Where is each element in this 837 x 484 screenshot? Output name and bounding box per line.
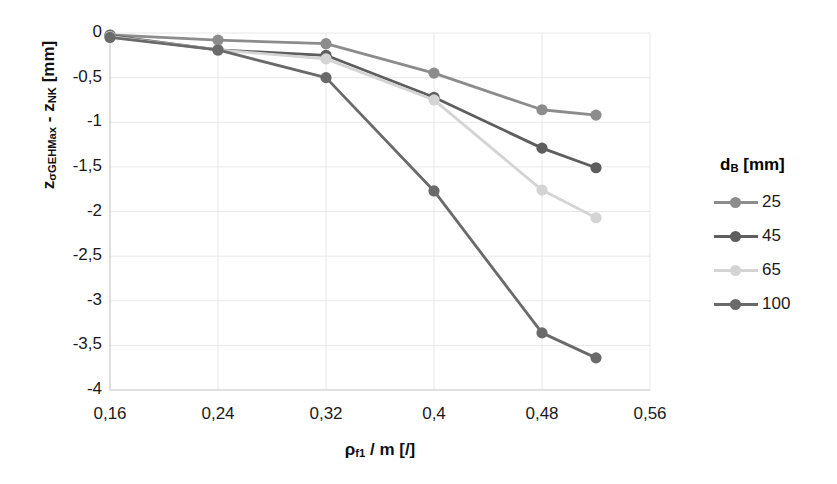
plot-area: [0, 0, 837, 484]
data-point: [536, 184, 547, 195]
legend-item-label: 65: [762, 260, 781, 280]
legend-item-100[interactable]: 100: [714, 287, 834, 321]
legend-swatch-icon: [714, 297, 758, 311]
data-point: [428, 94, 439, 105]
data-point: [320, 53, 331, 64]
data-point: [536, 104, 547, 115]
legend-title-prefix: d: [720, 155, 730, 174]
legend-item-45[interactable]: 45: [714, 219, 834, 253]
series-line: [110, 36, 596, 168]
legend-title-sub: B: [730, 162, 738, 174]
data-point: [590, 352, 601, 363]
legend-item-label: 100: [762, 294, 790, 314]
series-100: [104, 32, 601, 364]
data-point: [536, 143, 547, 154]
legend-item-label: 25: [762, 192, 781, 212]
data-point: [590, 212, 601, 223]
data-point: [428, 68, 439, 79]
data-point: [428, 185, 439, 196]
legend-swatch-icon: [714, 195, 758, 209]
data-point: [320, 38, 331, 49]
legend: dB [mm] 254565100: [714, 155, 834, 321]
legend-item-65[interactable]: 65: [714, 253, 834, 287]
legend-items: 254565100: [714, 185, 834, 321]
data-point: [590, 110, 601, 121]
legend-swatch-icon: [714, 263, 758, 277]
data-point: [212, 35, 223, 46]
data-point: [212, 44, 223, 55]
chart-figure: zσGEHMax - zNK [mm] ρf1 / m [/] 0-0,5-1-…: [0, 0, 837, 484]
legend-swatch-icon: [714, 229, 758, 243]
data-point: [590, 162, 601, 173]
legend-item-label: 45: [762, 226, 781, 246]
legend-title-suffix: [mm]: [739, 155, 785, 174]
data-point: [536, 327, 547, 338]
data-point: [104, 32, 115, 43]
series-65: [104, 31, 601, 223]
legend-title: dB [mm]: [720, 155, 834, 175]
series-line: [110, 37, 596, 218]
series-line: [110, 37, 596, 357]
legend-item-25[interactable]: 25: [714, 185, 834, 219]
data-point: [320, 72, 331, 83]
